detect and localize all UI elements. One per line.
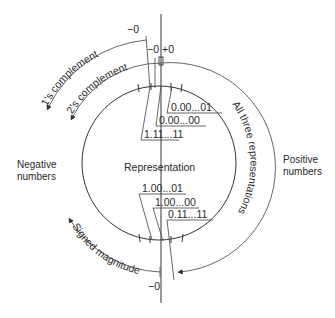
value-0-00-00: 0.00...00: [159, 114, 200, 126]
ones-complement-label: 1's complement: [38, 47, 100, 107]
value-1-00-00: 1.00...00: [155, 196, 196, 208]
value-0-00-01: 0.00...01: [171, 101, 212, 113]
positive-numbers-label-2: numbers: [283, 166, 322, 177]
value-0-11-11: 0.11...11: [168, 208, 207, 220]
signed-magnitude-label: Signed magnitude: [70, 221, 141, 277]
center-label: Representation: [124, 161, 195, 173]
top-neg-zero: −0: [147, 43, 159, 55]
negative-numbers-label-2: numbers: [17, 171, 56, 182]
all-three-label: All three representations: [230, 99, 260, 217]
number-representation-diagram: 0.00...01 0.00...00 1.11...11 1.00...01 …: [0, 0, 335, 318]
value-1-00-01: 1.00...01: [142, 182, 183, 194]
top-pos-zero: +0: [162, 43, 174, 55]
positive-numbers-label: Positive: [283, 154, 318, 165]
ones-neg-zero: −0: [127, 23, 139, 35]
bottom-neg-zero: −0: [148, 280, 160, 292]
value-1-11-11: 1.11...11: [144, 128, 183, 140]
negative-numbers-label: Negative: [17, 159, 57, 170]
